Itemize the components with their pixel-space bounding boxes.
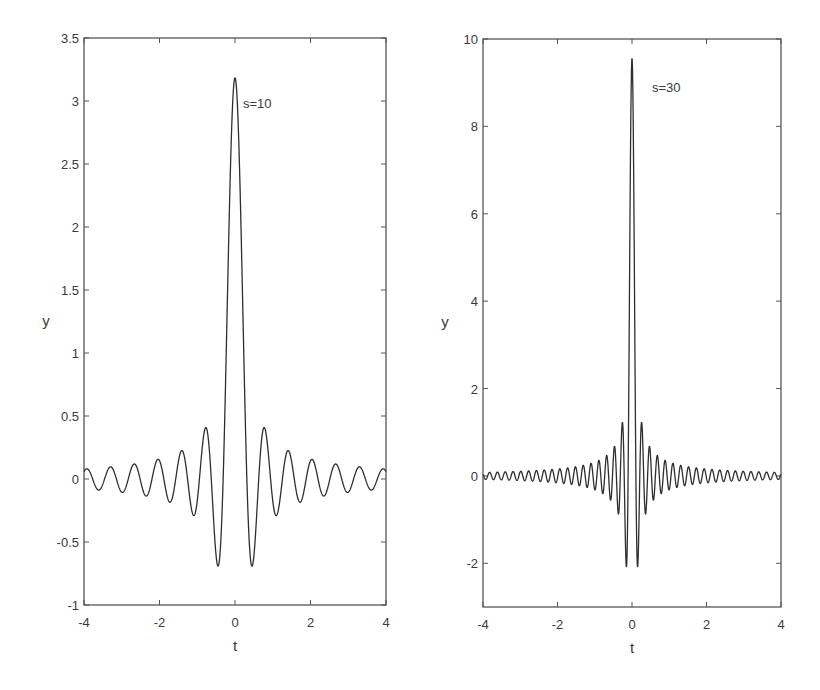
axes-box (483, 39, 781, 607)
annotation-label: s=30 (652, 80, 681, 95)
y-tick-label: -0.5 (57, 535, 79, 550)
y-tick-label: 0 (72, 472, 79, 487)
y-tick-label: 10 (464, 32, 478, 47)
y-tick-label: 1 (72, 346, 79, 361)
tick-labels: -4-2024-1-0.500.511.522.533.5 (57, 31, 390, 630)
y-tick-label: 0 (471, 469, 478, 484)
x-tick-label: -2 (552, 617, 564, 632)
y-tick-label: 2.5 (61, 157, 79, 172)
x-tick-label: -2 (154, 615, 166, 630)
x-axis-label: t (233, 637, 238, 654)
x-axis-label: t (630, 639, 635, 656)
y-tick-label: 2 (72, 220, 79, 235)
plot-s30: -4-2024-20246810 s=30 t y (441, 32, 784, 656)
y-tick-label: -1 (67, 598, 79, 613)
data-line (483, 59, 781, 567)
y-tick-label: 2 (471, 382, 478, 397)
x-tick-label: 4 (777, 617, 784, 632)
data-line (84, 78, 386, 566)
x-tick-label: -4 (78, 615, 90, 630)
x-tick-label: 2 (703, 617, 710, 632)
ticks (483, 39, 781, 607)
annotation-label: s=10 (243, 96, 272, 111)
tick-labels: -4-2024-20246810 (464, 32, 785, 632)
x-tick-label: 4 (382, 615, 389, 630)
axes-box (84, 38, 386, 605)
plot-s10: -4-2024-1-0.500.511.522.533.5 s=10 t y (42, 31, 389, 654)
y-tick-label: 0.5 (61, 409, 79, 424)
x-tick-label: -4 (477, 617, 489, 632)
y-tick-label: 1.5 (61, 283, 79, 298)
y-tick-label: -2 (466, 556, 478, 571)
y-tick-label: 8 (471, 119, 478, 134)
y-tick-label: 4 (471, 294, 478, 309)
y-tick-label: 6 (471, 207, 478, 222)
y-axis-label: y (42, 312, 50, 329)
y-axis-label: y (441, 313, 449, 330)
ticks (84, 38, 386, 605)
x-tick-label: 0 (628, 617, 635, 632)
x-tick-label: 2 (307, 615, 314, 630)
y-tick-label: 3 (72, 94, 79, 109)
x-tick-label: 0 (231, 615, 238, 630)
y-tick-label: 3.5 (61, 31, 79, 46)
figure: -4-2024-1-0.500.511.522.533.5 s=10 t y -… (0, 0, 820, 690)
